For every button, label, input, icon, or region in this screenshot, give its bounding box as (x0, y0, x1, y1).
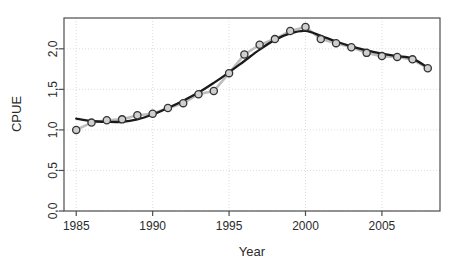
data-point (378, 53, 385, 60)
x-axis-title: Year (239, 244, 266, 259)
data-point (149, 110, 156, 117)
x-tick-label: 1985 (63, 219, 90, 233)
data-point (210, 87, 217, 94)
y-tick-label: 0,0 (46, 202, 60, 219)
y-tick-label: 1,0 (46, 121, 60, 138)
data-point (363, 49, 370, 56)
data-point (118, 116, 125, 123)
y-tick-label: 2,0 (46, 40, 60, 57)
y-tick-label: 1,5 (46, 81, 60, 98)
x-tick-label: 2005 (369, 219, 396, 233)
data-point (195, 91, 202, 98)
data-point (409, 56, 416, 63)
cpue-year-line-chart: 19851990199520002005 0,00,51,01,52,0 Yea… (0, 0, 468, 263)
data-point (302, 23, 309, 30)
data-point (134, 112, 141, 119)
data-point (332, 40, 339, 47)
data-point (317, 35, 324, 42)
y-tick-label: 0,5 (46, 162, 60, 179)
x-tick-label: 1995 (216, 219, 243, 233)
data-point (164, 104, 171, 111)
data-point (103, 117, 110, 124)
data-point (180, 100, 187, 107)
chart-figure: 19851990199520002005 0,00,51,01,52,0 Yea… (0, 0, 468, 263)
data-point (287, 27, 294, 34)
data-point (424, 65, 431, 72)
data-point (88, 119, 95, 126)
x-tick-label: 2000 (292, 219, 319, 233)
data-point (348, 44, 355, 51)
x-tick-label: 1990 (139, 219, 166, 233)
data-point (225, 70, 232, 77)
data-point (73, 126, 80, 133)
y-axis-title: CPUE (9, 96, 24, 132)
data-point (271, 35, 278, 42)
data-point (241, 51, 248, 58)
data-point (394, 53, 401, 60)
data-point (256, 41, 263, 48)
